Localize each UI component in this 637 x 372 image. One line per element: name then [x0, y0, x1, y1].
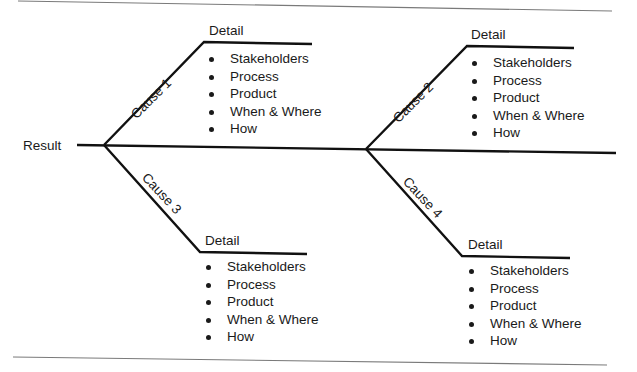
bullet-icon [206, 265, 211, 270]
detail-item: Process [470, 72, 585, 90]
bullet-icon [206, 318, 211, 323]
cause-4-detail-list: Stakeholders Process Product When & Wher… [467, 262, 582, 350]
bullet-icon [209, 92, 214, 97]
cause-2-detail-list: Stakeholders Process Product When & Wher… [470, 54, 585, 142]
bullet-icon [469, 339, 474, 344]
bullet-icon [472, 114, 477, 119]
bullet-icon [206, 300, 211, 305]
detail-item: Product [467, 297, 582, 315]
bullet-icon [209, 57, 214, 62]
cause-4-detail-label: Detail [468, 237, 503, 253]
bullet-icon [469, 304, 474, 309]
bullet-icon [472, 131, 477, 136]
detail-item: How [207, 120, 322, 138]
detail-item: Stakeholders [470, 54, 585, 72]
bullet-icon [469, 269, 474, 274]
detail-item: How [204, 328, 319, 346]
detail-item: When & Where [207, 103, 322, 121]
detail-item: When & Where [467, 315, 582, 333]
cause-2-detail-label: Detail [471, 27, 506, 43]
detail-item: How [470, 124, 585, 142]
cause-1-detail-list: Stakeholders Process Product When & Wher… [207, 50, 322, 138]
detail-item: Product [470, 89, 585, 107]
bullet-icon [472, 61, 477, 66]
detail-item: Process [207, 68, 322, 86]
cause-3-detail-list: Stakeholders Process Product When & Wher… [204, 258, 319, 346]
detail-item: Product [207, 85, 322, 103]
detail-item: When & Where [204, 311, 319, 329]
detail-item: Stakeholders [204, 258, 319, 276]
result-label: Result [23, 138, 61, 154]
detail-item: How [467, 332, 582, 350]
bottom-rule [13, 357, 607, 365]
cause-1-detail-label: Detail [209, 23, 244, 39]
bullet-icon [206, 283, 211, 288]
top-rule [18, 1, 612, 11]
detail-item: Process [467, 280, 582, 298]
bullet-icon [209, 75, 214, 80]
bullet-icon [209, 127, 214, 132]
bullet-icon [472, 79, 477, 84]
detail-item: When & Where [470, 107, 585, 125]
bullet-icon [469, 287, 474, 292]
bullet-icon [469, 322, 474, 327]
spine [77, 145, 616, 153]
cause-3-detail-label: Detail [205, 233, 240, 249]
detail-item: Process [204, 276, 319, 294]
bullet-icon [472, 96, 477, 101]
bullet-icon [206, 335, 211, 340]
detail-item: Stakeholders [207, 50, 322, 68]
detail-item: Product [204, 293, 319, 311]
bullet-icon [209, 110, 214, 115]
detail-item: Stakeholders [467, 262, 582, 280]
